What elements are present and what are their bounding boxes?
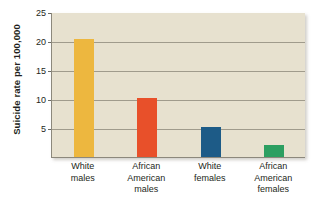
bar bbox=[137, 98, 157, 157]
bar bbox=[201, 127, 221, 157]
x-axis-label: AfricanAmericanmales bbox=[115, 161, 179, 196]
y-axis-title: Suicide rate per 100,000 bbox=[11, 10, 22, 150]
x-axis-label-line: females bbox=[242, 184, 306, 196]
y-tick-label: 15 bbox=[24, 67, 46, 76]
y-tick-label: 10 bbox=[24, 96, 46, 105]
plot-area bbox=[51, 13, 305, 158]
x-axis-label-line: males bbox=[115, 184, 179, 196]
x-axis-label-line: females bbox=[178, 173, 242, 185]
x-axis-label-line: White bbox=[51, 161, 115, 173]
x-axis-label-line: White bbox=[178, 161, 242, 173]
x-axis-label-line: American bbox=[115, 173, 179, 185]
y-tick-label: 25 bbox=[24, 9, 46, 18]
y-axis-tick-labels: 510152025 bbox=[24, 8, 48, 160]
x-axis-label-line: American bbox=[242, 173, 306, 185]
x-axis-category-labels: WhitemalesAfricanAmericanmalesWhitefemal… bbox=[51, 161, 305, 203]
y-tick-label: 20 bbox=[24, 38, 46, 47]
bar-chart-figure: Suicide rate per 100,000 510152025 White… bbox=[0, 0, 322, 203]
x-axis-label-line: African bbox=[242, 161, 306, 173]
x-axis-label: Whitemales bbox=[51, 161, 115, 184]
x-axis-label-line: males bbox=[51, 173, 115, 185]
bar bbox=[264, 145, 284, 157]
x-axis-label-line: African bbox=[115, 161, 179, 173]
x-axis-label: AfricanAmericanfemales bbox=[242, 161, 306, 196]
x-axis-label: Whitefemales bbox=[178, 161, 242, 184]
y-tick-label: 5 bbox=[24, 125, 46, 134]
bar bbox=[74, 39, 94, 157]
